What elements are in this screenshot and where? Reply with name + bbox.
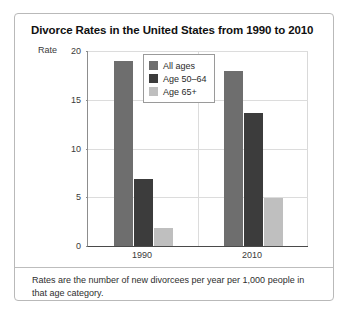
x-axis-tick-label: 2010: [212, 250, 292, 260]
legend-item: Age 50–64: [149, 72, 207, 85]
bar: [114, 61, 133, 246]
legend-item: All ages: [149, 59, 207, 72]
legend-swatch-icon: [149, 74, 158, 83]
chart-title: Divorce Rates in the United States from …: [31, 24, 323, 36]
bar: [244, 113, 263, 246]
bar: [224, 71, 243, 246]
bar: [154, 228, 173, 246]
legend-label: All ages: [163, 61, 195, 71]
legend-label: Age 65+: [163, 87, 197, 97]
legend-item: Age 65+: [149, 85, 207, 98]
x-axis-tick-label: 1990: [102, 250, 182, 260]
chart-card: Divorce Rates in the United States from …: [14, 13, 334, 301]
chart-legend: All agesAge 50–64Age 65+: [143, 54, 215, 103]
chart-note: Rates are the number of new divorcees pe…: [32, 274, 318, 300]
legend-swatch-icon: [149, 87, 158, 96]
bar: [134, 179, 153, 246]
bar: [264, 198, 283, 246]
note-divider: [15, 267, 333, 268]
legend-swatch-icon: [149, 61, 158, 70]
legend-label: Age 50–64: [163, 74, 207, 84]
